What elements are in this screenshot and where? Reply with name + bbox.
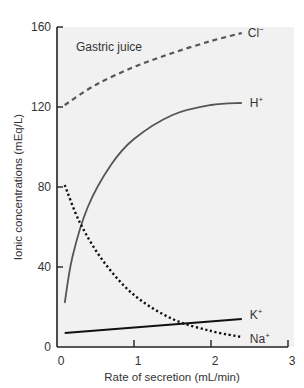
y-tick-label: 120 (31, 100, 51, 114)
x-axis-title: Rate of secretion (mL/min) (104, 371, 240, 383)
ionic-concentration-chart: Cl−H+Na+K+ 040801201600123 Gastric juice… (0, 0, 304, 388)
x-tick-label: 1 (135, 354, 142, 368)
plot-background (57, 27, 294, 347)
x-tick-label: 2 (212, 354, 219, 368)
y-tick-label: 0 (44, 340, 51, 354)
y-tick-label: 80 (38, 180, 52, 194)
x-tick-label: 3 (289, 354, 296, 368)
x-tick-label: 0 (58, 354, 65, 368)
gastric-juice-annotation: Gastric juice (76, 40, 142, 54)
y-tick-label: 160 (31, 20, 51, 34)
y-axis-title: Ionic concentrations (mEq/L) (12, 114, 24, 261)
y-tick-label: 40 (38, 260, 52, 274)
